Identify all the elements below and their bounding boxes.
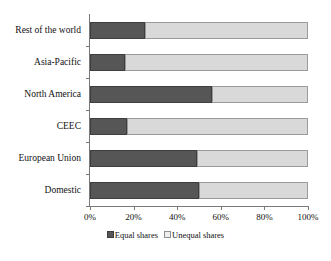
y-axis-tick xyxy=(86,78,90,79)
y-axis-tick xyxy=(86,142,90,143)
y-axis-tick xyxy=(86,174,90,175)
legend-item: Equal shares xyxy=(107,229,158,241)
bar-segment-unequal-shares xyxy=(145,22,309,39)
x-axis-tick xyxy=(308,206,309,210)
y-axis-tick-label: North America xyxy=(0,89,81,99)
legend-swatch-equal-icon xyxy=(107,231,114,238)
legend-label: Unequal shares xyxy=(172,230,224,241)
plot-area: 0%20%40%60%80%100% xyxy=(90,14,308,206)
bar-row xyxy=(90,54,308,71)
y-axis-tick-label: Asia-Pacific xyxy=(0,57,81,67)
bar-segment-unequal-shares xyxy=(197,150,308,167)
y-axis-tick-label: European Union xyxy=(0,153,81,163)
stacked-bar-chart: Rest of the worldAsia-PacificNorth Ameri… xyxy=(0,0,331,261)
y-axis-tick xyxy=(86,110,90,111)
x-axis-tick-label: 60% xyxy=(204,212,238,222)
bar-segment-equal-shares xyxy=(90,86,212,103)
chart-legend: Equal sharesUnequal shares xyxy=(0,229,331,241)
bar-row xyxy=(90,86,308,103)
bar-segment-equal-shares xyxy=(90,118,127,135)
bar-row xyxy=(90,150,308,167)
legend-item: Unequal shares xyxy=(164,229,224,241)
bar-row xyxy=(90,118,308,135)
bar-segment-unequal-shares xyxy=(199,182,308,199)
bar-segment-unequal-shares xyxy=(212,86,308,103)
x-axis-tick-label: 40% xyxy=(160,212,194,222)
x-axis-tick-label: 0% xyxy=(73,212,107,222)
x-axis-tick xyxy=(134,206,135,210)
y-axis-tick-label: Domestic xyxy=(0,185,81,195)
y-axis-category-labels: Rest of the worldAsia-PacificNorth Ameri… xyxy=(0,14,86,206)
bar-segment-unequal-shares xyxy=(127,118,308,135)
bar-segment-unequal-shares xyxy=(125,54,308,71)
bar-row xyxy=(90,22,308,39)
y-axis-tick-label: CEEC xyxy=(0,121,81,131)
x-axis-tick-label: 20% xyxy=(117,212,151,222)
x-axis-tick xyxy=(90,206,91,210)
y-axis-tick-label: Rest of the world xyxy=(0,25,81,35)
x-axis-tick-label: 80% xyxy=(247,212,281,222)
x-axis-tick xyxy=(221,206,222,210)
bar-row xyxy=(90,182,308,199)
x-axis-tick xyxy=(264,206,265,210)
x-axis-tick xyxy=(177,206,178,210)
bar-segment-equal-shares xyxy=(90,150,197,167)
bar-segment-equal-shares xyxy=(90,182,199,199)
bar-segment-equal-shares xyxy=(90,54,125,71)
x-axis-tick-label: 100% xyxy=(291,212,325,222)
bar-segment-equal-shares xyxy=(90,22,145,39)
legend-swatch-unequal-icon xyxy=(164,231,171,238)
y-axis-tick xyxy=(86,46,90,47)
legend-label: Equal shares xyxy=(115,230,158,241)
x-axis-line xyxy=(89,206,308,207)
